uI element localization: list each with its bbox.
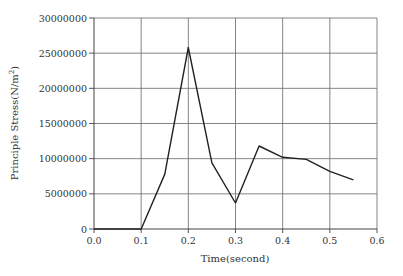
- x-tick-label: 0.4: [275, 235, 290, 246]
- y-tick-label: 20000000: [39, 83, 87, 94]
- y-axis-title: Principle Stress(N/m2): [8, 66, 20, 180]
- x-tick-label: 0.3: [228, 235, 243, 246]
- x-axis-ticks: 0.00.10.20.30.40.50.6: [86, 229, 384, 246]
- x-tick-label: 0.0: [86, 235, 101, 246]
- x-tick-label: 0.1: [134, 235, 149, 246]
- y-tick-label: 15000000: [39, 118, 87, 129]
- x-axis-title: Time(second): [201, 253, 270, 264]
- grid-lines: [94, 18, 377, 229]
- y-tick-label: 25000000: [39, 48, 87, 59]
- line-chart: 0500000010000000150000002000000025000000…: [0, 0, 403, 276]
- data-line: [94, 48, 353, 230]
- y-tick-label: 5000000: [45, 188, 87, 199]
- x-tick-label: 0.2: [181, 235, 196, 246]
- y-axis-ticks: 0500000010000000150000002000000025000000…: [39, 13, 94, 235]
- x-tick-label: 0.5: [322, 235, 337, 246]
- y-tick-label: 10000000: [39, 153, 87, 164]
- x-tick-label: 0.6: [369, 235, 384, 246]
- y-tick-label: 30000000: [39, 13, 87, 24]
- y-tick-label: 0: [81, 224, 87, 235]
